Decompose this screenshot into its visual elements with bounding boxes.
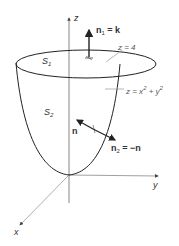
s1-label: S1 — [42, 57, 51, 67]
paraboloid-s2 — [16, 63, 120, 175]
paraboloid-equation: z = x2 + y2 — [126, 85, 163, 96]
n2-arrow — [93, 129, 115, 140]
n-label: n — [72, 127, 78, 136]
n-arrow — [77, 120, 93, 129]
x-axis — [20, 175, 69, 225]
plane-label: z = 4 — [118, 44, 136, 52]
n1-label: n1 = k — [96, 26, 120, 36]
diagram-canvas — [0, 0, 179, 246]
y-axis-label: y — [153, 181, 158, 190]
z-axis-label: z — [74, 14, 79, 23]
top-disk-s1 — [16, 50, 156, 78]
y-axis — [69, 175, 158, 176]
x-axis-label: x — [14, 228, 19, 237]
s2-label: S2 — [44, 108, 53, 118]
n2-label: n2 = −n — [111, 144, 141, 154]
